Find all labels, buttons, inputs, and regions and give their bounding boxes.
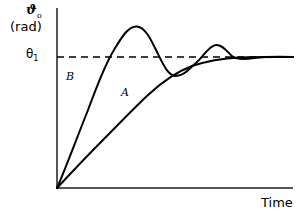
curve-b-underdamped [57,26,293,188]
curve-label-a: A [121,87,129,98]
plot-area [0,0,307,221]
y-tick-label-theta1: θ1 [26,48,38,63]
y-axis-symbol: ϑo [26,3,42,20]
x-axis-label: Time [261,196,293,209]
curve-label-b: B [66,71,74,82]
theta-subscript: 1 [33,54,38,63]
y-axis-unit-label: (rad) [10,20,42,33]
y-axis-symbol-glyph: ϑ [26,2,37,17]
step-response-chart: ϑo (rad) θ1 B A Time [0,0,307,221]
